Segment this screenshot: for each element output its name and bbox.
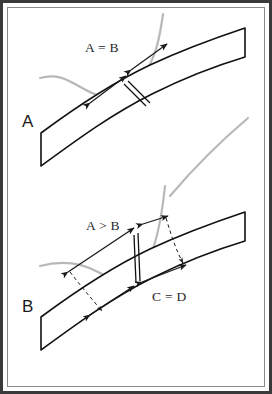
measure-label-a-equals-b: A = B xyxy=(85,40,119,55)
panel-label-b: B xyxy=(22,297,33,316)
curved-band-panel-a xyxy=(41,28,245,166)
measure-label-a-greater-b: A > B xyxy=(86,218,120,233)
panel-label-a: A xyxy=(22,112,34,131)
gray-lower-arc xyxy=(170,118,248,196)
panel-a-group: A = B A xyxy=(22,14,248,196)
measure-label-c-equals-d: C = D xyxy=(152,289,187,304)
figure-canvas: A = B A A > B xyxy=(0,0,272,394)
panel-b-group: A > B C = D B xyxy=(22,186,245,350)
figure-root: A = B A A > B xyxy=(0,0,272,394)
arrow-segment-b-panel-b xyxy=(143,216,168,224)
